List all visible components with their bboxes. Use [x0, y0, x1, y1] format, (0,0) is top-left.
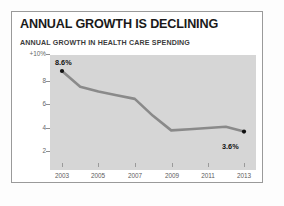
data-label-end: 3.6%	[222, 143, 239, 150]
x-tick-label-2013: 2013	[237, 173, 251, 179]
x-tick-mark-2003	[62, 163, 63, 167]
x-tick-mark-2011	[208, 163, 209, 167]
x-tick-label-2005: 2005	[91, 173, 105, 179]
x-tick-label-2009: 2009	[165, 173, 179, 179]
x-tick-mark-2009	[172, 163, 173, 167]
x-tick-mark-2005	[98, 163, 99, 167]
data-label-start: 8.6%	[55, 59, 72, 66]
x-tick-label-2003: 2003	[55, 173, 69, 179]
x-axis: 2003 2005 2007 2009 2011 2013	[0, 0, 284, 206]
x-tick-label-2011: 2011	[201, 173, 215, 179]
x-tick-label-2007: 2007	[128, 173, 142, 179]
x-tick-mark-2007	[135, 163, 136, 167]
x-tick-mark-2013	[244, 163, 245, 167]
chart-figure: ANNUAL GROWTH IS DECLINING ANNUAL GROWTH…	[0, 0, 284, 206]
